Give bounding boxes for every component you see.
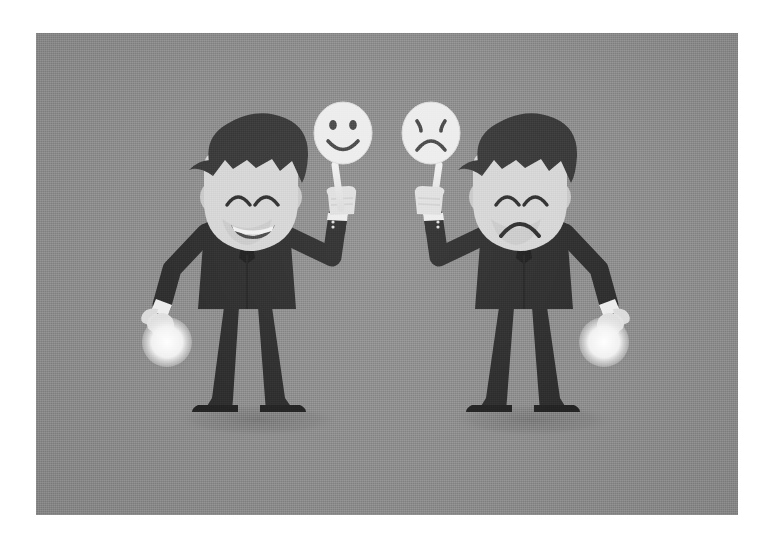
illustration-panel	[36, 33, 738, 515]
left-orb	[142, 317, 192, 367]
right-man-legs	[466, 307, 580, 412]
left-businessman[interactable]	[141, 113, 356, 412]
right-orb	[579, 317, 629, 367]
right-man-gripping-hand	[415, 186, 445, 215]
happy-mask-eye-right	[349, 120, 357, 130]
happy-mask-eye-left	[329, 120, 337, 130]
illustration-caption: Two cartoon businessmen holding emotion …	[0, 0, 1, 1]
left-man-legs	[192, 307, 306, 412]
screenshot-canvas: Two cartoon businessmen holding emotion …	[0, 0, 773, 544]
illustration-scene	[36, 33, 738, 515]
